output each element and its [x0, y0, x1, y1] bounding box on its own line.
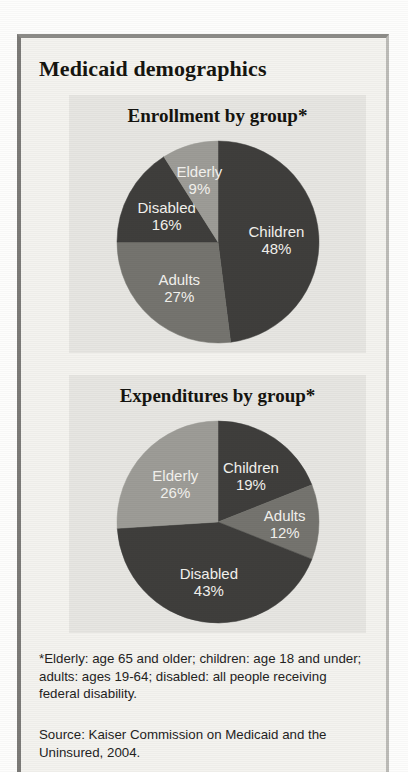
footnote-source-text: Source: Kaiser Commission on Medicaid an…	[39, 726, 369, 761]
svg-text:Elderly: Elderly	[152, 467, 198, 484]
chart-title-expenditures: Expenditures by group*	[69, 385, 366, 407]
svg-text:26%: 26%	[160, 484, 190, 501]
svg-text:9%: 9%	[188, 180, 210, 197]
svg-text:48%: 48%	[261, 240, 291, 257]
svg-text:12%: 12%	[269, 524, 299, 541]
footnote-definitions-text: *Elderly: age 65 and older; children: ag…	[39, 650, 369, 703]
svg-text:Elderly: Elderly	[176, 163, 222, 180]
chart-title-enrollment: Enrollment by group*	[69, 105, 366, 127]
chart-panel-enrollment: Enrollment by group* Children48%Adults27…	[69, 95, 366, 353]
pie-chart-expenditures-svg: Children19%Adults12%Disabled43%Elderly26…	[114, 420, 322, 625]
svg-text:43%: 43%	[193, 582, 223, 599]
svg-text:19%: 19%	[235, 476, 265, 493]
scanned-page: Medicaid demographics Enrollment by grou…	[0, 0, 408, 772]
page-title: Medicaid demographics	[39, 56, 267, 82]
svg-text:Children: Children	[222, 459, 278, 476]
svg-text:Adults: Adults	[263, 507, 305, 524]
pie-chart-expenditures: Children19%Adults12%Disabled43%Elderly26…	[114, 420, 322, 625]
svg-text:27%: 27%	[164, 288, 194, 305]
figure-body: Medicaid demographics Enrollment by grou…	[21, 38, 386, 772]
pie-label-adults: Adults12%	[263, 507, 305, 541]
pie-label-adults: Adults27%	[158, 271, 200, 305]
footnote-source: Source: Kaiser Commission on Medicaid an…	[39, 726, 369, 761]
pie-chart-enrollment: Children48%Adults27%Disabled16%Elderly9%	[114, 140, 322, 345]
footnote-definitions: *Elderly: age 65 and older; children: ag…	[39, 650, 369, 703]
svg-text:Disabled: Disabled	[179, 565, 237, 582]
svg-text:16%: 16%	[151, 216, 181, 233]
pie-chart-enrollment-svg: Children48%Adults27%Disabled16%Elderly9%	[114, 140, 322, 345]
chart-panel-expenditures: Expenditures by group* Children19%Adults…	[69, 375, 366, 633]
svg-text:Disabled: Disabled	[137, 199, 195, 216]
svg-text:Children: Children	[248, 223, 304, 240]
svg-text:Adults: Adults	[158, 271, 200, 288]
figure-frame: Medicaid demographics Enrollment by grou…	[17, 34, 389, 772]
